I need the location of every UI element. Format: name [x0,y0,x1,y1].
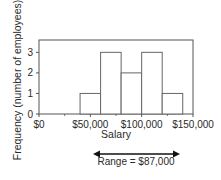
x-tick-label: $150,000 [172,119,214,130]
y-tick-label: 3 [27,47,33,58]
histogram-chart: 0123 $0$50,000$100,000$150,000 [0,0,221,180]
y-axis-ticks: 0123 [27,47,39,120]
histogram-bar [142,52,163,114]
y-tick-label: 0 [27,109,33,120]
y-tick-label: 2 [27,67,33,78]
histogram-bar [121,73,142,114]
histogram-bars [80,52,183,114]
x-axis-label: Salary [101,128,131,140]
histogram-bar [80,93,101,114]
histogram-bar [162,93,183,114]
y-tick-label: 1 [27,88,33,99]
x-tick-label: $0 [33,119,45,130]
range-annotation-label: Range = $87,000 [97,156,174,167]
histogram-bar [101,52,122,114]
